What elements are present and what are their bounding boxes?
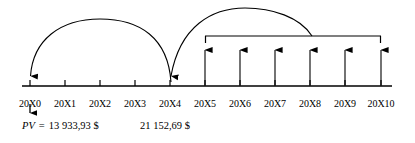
discount-arc-to-20X0: [31, 19, 172, 82]
period-label-20X4: 20X4: [159, 98, 181, 109]
pv-equals-sign: =: [39, 120, 45, 131]
discount-arc-to-20X4: [171, 8, 312, 76]
period-label-20X0: 20X0: [19, 98, 41, 109]
period-label-20X5: 20X5: [194, 98, 216, 109]
period-label-20X9: 20X9: [334, 98, 356, 109]
annuity-bracket: [205, 36, 381, 43]
period-label-20X10: 20X10: [367, 98, 394, 109]
period-label-20X6: 20X6: [229, 98, 251, 109]
period-label-20X2: 20X2: [89, 98, 111, 109]
period-label-20X1: 20X1: [54, 98, 76, 109]
period-label-20X3: 20X3: [124, 98, 146, 109]
pv-symbol: PV: [22, 120, 35, 131]
cash-flow-timeline-diagram: 20X0 20X1 20X2 20X3 20X4 20X5 20X6 20X7 …: [0, 0, 415, 143]
present-value-annotation: PV=13 933,93 $: [22, 120, 99, 131]
period-label-20X7: 20X7: [264, 98, 286, 109]
value-at-20X4-annotation: 21 152,69 $: [140, 120, 190, 131]
period-label-20X8: 20X8: [299, 98, 321, 109]
pv-amount: 13 933,93 $: [49, 120, 99, 131]
cash-inflow-arrows: [205, 50, 381, 85]
